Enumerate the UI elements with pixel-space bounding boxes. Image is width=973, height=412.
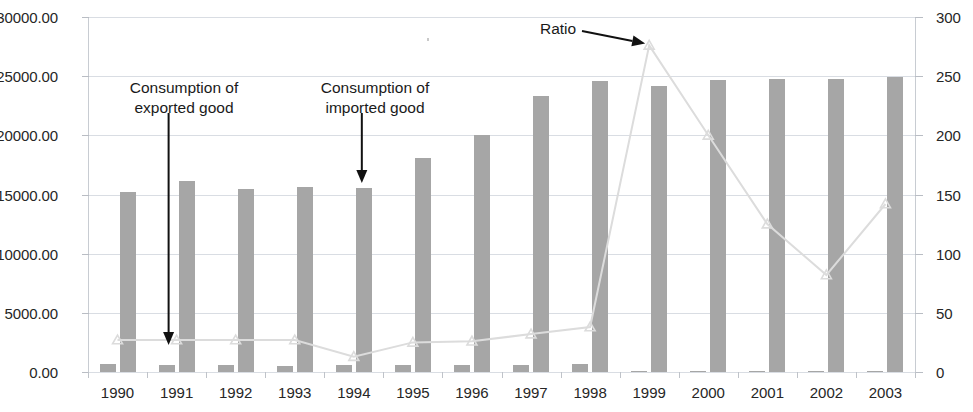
bar	[808, 371, 824, 372]
y-axis-left-tick	[82, 76, 89, 77]
bar	[769, 79, 785, 372]
bar	[533, 96, 549, 372]
scan-artifact-speck	[427, 38, 429, 41]
y-axis-right-tick	[915, 76, 923, 77]
bar	[179, 181, 195, 372]
x-axis-tick	[856, 372, 857, 378]
y-axis-left-tick	[82, 195, 89, 196]
bar	[277, 366, 293, 372]
y-axis-left-tick-label: 5000.00	[4, 304, 58, 321]
gridline	[88, 195, 915, 196]
y-axis-right-tick-label: 50	[936, 304, 953, 321]
x-axis-tick	[147, 372, 148, 378]
bar	[749, 371, 765, 372]
x-axis-tick	[88, 372, 89, 378]
x-axis-tick-label: 1997	[514, 384, 547, 401]
bar	[592, 81, 608, 372]
annotation-imported-good: Consumption of imported good	[290, 78, 460, 118]
annotation-imported-line2: imported good	[290, 98, 460, 118]
bar	[887, 77, 903, 372]
y-axis-left-tick-label: 0.00	[29, 364, 58, 381]
bar	[218, 365, 234, 372]
annotation-ratio-line1: Ratio	[540, 19, 576, 39]
y-axis-left-tick	[82, 135, 89, 136]
y-axis-right-tick-label: 150	[936, 186, 961, 203]
x-axis-tick-label: 2000	[692, 384, 725, 401]
bar	[120, 192, 136, 372]
x-axis-tick	[620, 372, 621, 378]
gridline	[88, 135, 915, 136]
bar	[474, 135, 490, 372]
gridline	[88, 17, 915, 18]
x-axis-tick	[324, 372, 325, 378]
bar	[336, 365, 352, 372]
annotation-imported-line1: Consumption of	[290, 78, 460, 98]
x-axis-tick-label: 1996	[455, 384, 488, 401]
bar	[690, 371, 706, 372]
bar	[356, 188, 372, 372]
y-axis-left-tick-label: 15000.00	[0, 186, 58, 203]
y-axis-left-tick	[82, 17, 89, 18]
y-axis-left-tick	[82, 313, 89, 314]
y-axis-right-tick-label: 300	[936, 9, 961, 26]
x-axis-tick-label: 1993	[278, 384, 311, 401]
x-axis-tick-label: 1990	[101, 384, 134, 401]
gridline	[88, 254, 915, 255]
x-axis-tick	[561, 372, 562, 378]
bar	[513, 365, 529, 372]
x-axis-tick	[915, 372, 916, 378]
x-axis-tick	[797, 372, 798, 378]
y-axis-left-tick	[82, 254, 89, 255]
bar	[828, 79, 844, 372]
x-axis-tick	[383, 372, 384, 378]
bar	[631, 371, 647, 372]
bar	[572, 364, 588, 372]
y-axis-right-tick-label: 200	[936, 127, 961, 144]
y-axis-right-tick-label: 100	[936, 245, 961, 262]
x-axis-tick-label: 2003	[869, 384, 902, 401]
x-axis-tick	[738, 372, 739, 378]
gridline	[88, 313, 915, 314]
x-axis-tick	[442, 372, 443, 378]
x-axis-tick-label: 1991	[160, 384, 193, 401]
x-axis-tick-label: 1998	[573, 384, 606, 401]
y-axis-right-tick	[915, 372, 923, 373]
bar	[454, 365, 470, 372]
bar	[395, 365, 411, 372]
y-axis-left-tick-label: 20000.00	[0, 127, 58, 144]
x-axis-tick	[206, 372, 207, 378]
x-axis-tick-label: 1994	[337, 384, 370, 401]
bar	[651, 86, 667, 372]
y-axis-right-tick	[915, 135, 923, 136]
bar	[415, 158, 431, 372]
y-axis-right-tick	[915, 254, 923, 255]
bar	[297, 187, 313, 372]
y-axis-right-tick-label: 0	[936, 364, 944, 381]
y-axis-left-tick-label: 10000.00	[0, 245, 58, 262]
gridline	[88, 76, 915, 77]
y-axis-left-tick-label: 30000.00	[0, 9, 58, 26]
bar	[100, 364, 116, 372]
bar	[710, 80, 726, 372]
chart-container: 0.005000.0010000.0015000.0020000.0025000…	[0, 0, 973, 412]
x-axis-tick-label: 2001	[751, 384, 784, 401]
x-axis-tick-label: 1992	[219, 384, 252, 401]
y-axis-right-tick	[915, 195, 923, 196]
annotation-exported-line2: exported good	[104, 98, 264, 118]
x-axis-tick-label: 1995	[396, 384, 429, 401]
bar	[867, 371, 883, 372]
bar	[238, 189, 254, 372]
annotation-ratio: Ratio	[540, 19, 576, 39]
x-axis-tick	[265, 372, 266, 378]
y-axis-right-tick	[915, 17, 923, 18]
annotation-exported-line1: Consumption of	[104, 78, 264, 98]
y-axis-right-tick	[915, 313, 923, 314]
annotation-exported-good: Consumption of exported good	[104, 78, 264, 118]
x-axis-tick-label: 1999	[632, 384, 665, 401]
bar	[159, 365, 175, 372]
y-axis-right-tick-label: 250	[936, 68, 961, 85]
x-axis-tick-label: 2002	[810, 384, 843, 401]
x-axis-tick	[502, 372, 503, 378]
y-axis-left-tick-label: 25000.00	[0, 68, 58, 85]
x-axis-tick	[679, 372, 680, 378]
